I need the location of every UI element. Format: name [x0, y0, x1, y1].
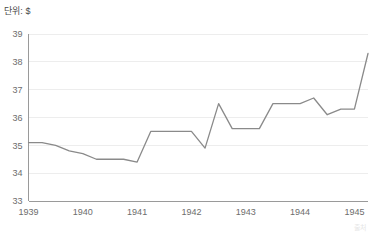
x-tick-label: 1945 — [344, 207, 364, 217]
y-axis-tick-labels: 33343536373839 — [12, 29, 22, 206]
line-chart: 33343536373839 1939194019411942194319441… — [0, 0, 372, 232]
y-tick-label: 39 — [12, 29, 22, 39]
y-tick-label: 34 — [12, 168, 22, 178]
y-tick-label: 36 — [12, 113, 22, 123]
x-tick-label: 1943 — [236, 207, 256, 217]
chart-page: 단위: $ 33343536373839 1939194019411942194… — [0, 0, 372, 232]
x-tick-label: 1942 — [181, 207, 201, 217]
y-tick-label: 38 — [12, 57, 22, 67]
x-tick-label: 1939 — [18, 207, 38, 217]
y-tick-label: 37 — [12, 85, 22, 95]
y-tick-label: 33 — [12, 196, 22, 206]
x-tick-label: 1941 — [127, 207, 147, 217]
x-tick-label: 1940 — [73, 207, 93, 217]
x-tick-label: 1944 — [290, 207, 310, 217]
source-note: 출처 — [354, 222, 366, 232]
x-axis-tick-labels: 1939194019411942194319441945 — [18, 207, 364, 217]
y-tick-label: 35 — [12, 141, 22, 151]
gridlines — [29, 34, 369, 201]
